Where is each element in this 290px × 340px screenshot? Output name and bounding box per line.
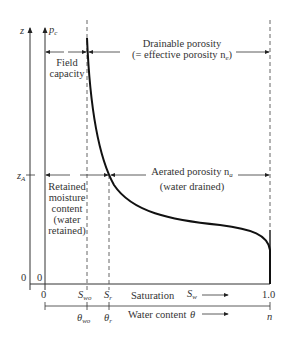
swo-sub: wo	[83, 294, 91, 302]
theta-r-sub: r	[109, 317, 112, 325]
saturation-zero: 0	[41, 289, 46, 300]
theta-r-label: θr	[104, 312, 112, 327]
saturation-label: Saturation	[131, 290, 174, 301]
aerated-sub: a	[229, 171, 233, 179]
saturation-one: 1.0	[262, 289, 275, 300]
retained-line3: content	[44, 203, 90, 214]
sw-sub: w	[192, 293, 197, 301]
za-label: zA	[17, 170, 25, 185]
n-label: n	[267, 311, 272, 322]
swo-label: Swo	[78, 289, 91, 304]
theta-wo-label: θwo	[77, 312, 90, 327]
theta-label: θ	[190, 309, 195, 320]
sr-sub: r	[109, 294, 112, 302]
field-capacity-line2: capacity	[48, 68, 86, 79]
origin-z-label: 0	[21, 272, 26, 283]
retained-line5: retained)	[44, 225, 90, 236]
aerated-porosity-label: Aerated porosity na (water drained)	[146, 166, 238, 192]
origin-pc-label: 0	[37, 272, 42, 283]
theta-wo-sub: wo	[82, 317, 90, 325]
field-capacity-label: Field capacity	[48, 57, 86, 79]
aerated-line1-text: Aerated porosity n	[151, 166, 229, 177]
pc-sub: c	[54, 29, 57, 37]
sr-label: Sr	[104, 289, 112, 304]
drainable-line2-text: (= effective porosity n	[132, 49, 226, 60]
z-axis-label: z	[20, 25, 24, 36]
drainable-close: )	[229, 49, 233, 60]
retention-curve	[87, 38, 270, 284]
pc-axis-label: pc	[49, 24, 57, 39]
retained-line2: moisture	[44, 192, 90, 203]
retained-moisture-label: Retained moisture content (water retaine…	[44, 181, 90, 236]
field-capacity-line1: Field	[48, 57, 86, 68]
za-sub: A	[21, 175, 25, 183]
retained-line1: Retained	[44, 181, 90, 192]
drainable-porosity-label: Drainable porosity (= effective porosity…	[122, 38, 242, 64]
aerated-line2: (water drained)	[146, 181, 238, 192]
sw-label: Sw	[187, 288, 197, 303]
retained-line4: (water	[44, 214, 90, 225]
drainable-porosity-line2: (= effective porosity ne)	[122, 49, 242, 64]
drainable-porosity-line1: Drainable porosity	[122, 38, 242, 49]
aerated-line1: Aerated porosity na	[146, 166, 238, 181]
water-content-label: Water content	[128, 309, 186, 320]
